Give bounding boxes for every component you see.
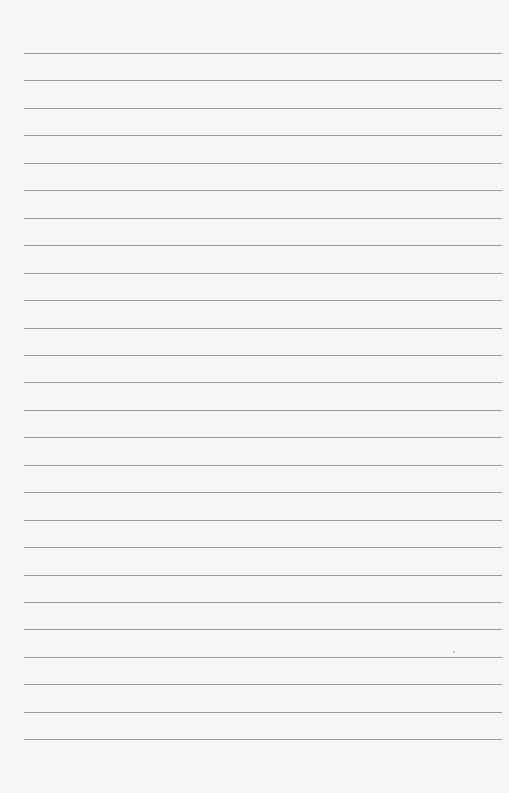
ruled-line	[24, 190, 502, 191]
ruled-line	[24, 492, 502, 493]
ruled-line	[24, 245, 502, 246]
paper-speck	[453, 651, 455, 653]
ruled-line	[24, 712, 502, 713]
ruled-line	[24, 437, 502, 438]
ruled-line	[24, 328, 502, 329]
ruled-line	[24, 575, 502, 576]
ruled-line	[24, 355, 502, 356]
ruled-line	[24, 382, 502, 383]
ruled-line	[24, 602, 502, 603]
ruled-line	[24, 739, 502, 740]
ruled-line	[24, 135, 502, 136]
ruled-line	[24, 300, 502, 301]
ruled-line	[24, 218, 502, 219]
ruled-line	[24, 108, 502, 109]
ruled-line	[24, 520, 502, 521]
ruled-line	[24, 657, 502, 658]
lined-paper-sheet	[0, 0, 509, 793]
ruled-line	[24, 53, 502, 54]
ruled-line	[24, 629, 502, 630]
ruled-line	[24, 273, 502, 274]
ruled-line	[24, 163, 502, 164]
ruled-line	[24, 410, 502, 411]
ruled-line	[24, 684, 502, 685]
ruled-line	[24, 80, 502, 81]
ruled-line	[24, 465, 502, 466]
ruled-line	[24, 547, 502, 548]
